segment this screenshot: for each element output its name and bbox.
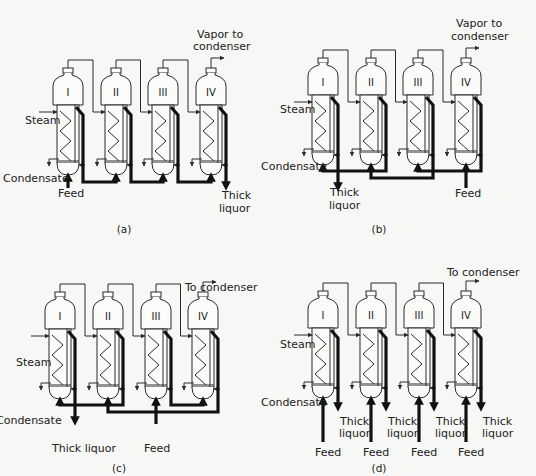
vapor-outlet-cap	[414, 291, 424, 296]
evaporator-bottom	[407, 153, 429, 165]
thick-liquor-label: Thick liquor	[51, 442, 116, 455]
evaporator-body	[360, 95, 382, 153]
vapor-to-condenser-line	[466, 281, 479, 291]
thick-liquor-label: Thick	[329, 186, 360, 199]
steam-label: Steam	[25, 114, 61, 127]
evaporator-bottom	[145, 387, 167, 399]
condensate-label: Condensate	[261, 396, 327, 409]
effect-number: III	[414, 77, 423, 88]
condensate-label: Condensate	[0, 414, 62, 427]
feed-label: Feed	[458, 446, 484, 459]
effect-number: IV	[198, 311, 208, 322]
effect-number: III	[415, 310, 424, 321]
vapor-outlet-cap	[158, 68, 168, 73]
evaporator-body	[145, 329, 167, 387]
evaporator-body	[152, 105, 174, 163]
panel-caption: (d)	[372, 462, 387, 474]
evaporator-body	[408, 328, 430, 386]
evaporator-bottom	[455, 153, 477, 165]
effect-number: I	[59, 311, 62, 322]
evaporator-body	[200, 105, 222, 163]
panel-caption: (a)	[117, 223, 132, 235]
evaporator-bottom	[105, 163, 127, 175]
vapor-to-condenser-label: condenser	[193, 40, 251, 53]
vapor-to-condenser-line	[466, 48, 479, 58]
feed-label: Feed	[144, 442, 170, 455]
condensate-label: Condensate	[3, 172, 69, 185]
panel-c: IIIIIIIVTo condenserSteamCondensateThick…	[0, 281, 258, 474]
effect-number: I	[67, 87, 70, 98]
vapor-outlet-cap	[461, 58, 471, 63]
evaporator-body	[49, 329, 71, 387]
feed-label: Feed	[315, 446, 341, 459]
panel-b: IIIIIIIVVapor tocondenserSteamCondensate…	[261, 17, 509, 235]
evaporator-bottom	[360, 386, 382, 398]
effect-number: IV	[461, 310, 471, 321]
vapor-outlet-cap	[63, 68, 73, 73]
evaporator-bottom	[152, 163, 174, 175]
thick-liquor-label: liquor	[339, 427, 371, 440]
thick-liquor-label: liquor	[387, 427, 419, 440]
vapor-outlet-cap	[151, 292, 161, 297]
effect-number: II	[113, 87, 119, 98]
vapor-outlet-cap	[111, 68, 121, 73]
vapor-to-condenser-line	[211, 58, 224, 68]
effect-number: I	[322, 77, 325, 88]
vapor-outlet-cap	[366, 58, 376, 63]
effect-number: II	[368, 77, 374, 88]
evaporator-bottom	[97, 387, 119, 399]
steam-label: Steam	[280, 338, 316, 351]
condensate-label: Condensate	[261, 160, 327, 173]
feed-label: Feed	[411, 446, 437, 459]
vapor-to-condenser-label: condenser	[451, 30, 509, 43]
effect-number: III	[152, 311, 161, 322]
evaporator-body	[455, 328, 477, 386]
effect-number: IV	[206, 87, 216, 98]
evaporator-bottom	[408, 386, 430, 398]
vapor-outlet-cap	[413, 58, 423, 63]
panel-d: IIIIIIIVThickliquorFeedThickliquorFeedTh…	[261, 266, 520, 474]
effect-number: I	[322, 310, 325, 321]
thick-liquor-label: liquor	[435, 427, 467, 440]
panel-a: IIIIIIIVVapor tocondenserSteamCondensate…	[3, 28, 252, 235]
vapor-outlet-cap	[318, 58, 328, 63]
vapor-outlet-cap	[103, 292, 113, 297]
evaporator-bottom	[360, 153, 382, 165]
effect-number: IV	[461, 77, 471, 88]
effect-number: III	[159, 87, 168, 98]
evaporator-figure: IIIIIIIVVapor tocondenserSteamCondensate…	[0, 0, 536, 476]
vapor-outlet-cap	[318, 291, 328, 296]
evaporator-body	[192, 329, 214, 387]
thick-liquor-label: liquor	[219, 202, 251, 215]
evaporator-body	[97, 329, 119, 387]
evaporator-bottom	[49, 387, 71, 399]
panel-caption: (c)	[112, 462, 126, 474]
vapor-to-condenser-label: Vapor to	[456, 17, 502, 30]
vapor-to-condenser-label: To condenser	[446, 266, 520, 279]
vapor-outlet-cap	[366, 291, 376, 296]
evaporator-body	[312, 328, 334, 386]
evaporator-body	[105, 105, 127, 163]
evaporator-bottom	[192, 387, 214, 399]
vapor-outlet-cap	[206, 68, 216, 73]
thick-liquor-label: liquor	[329, 199, 361, 212]
steam-label: Steam	[280, 103, 316, 116]
evaporator-bottom	[200, 163, 222, 175]
effect-number: II	[368, 310, 374, 321]
effect-number: II	[105, 311, 111, 322]
evaporator-body	[407, 95, 429, 153]
evaporator-body	[360, 328, 382, 386]
thick-liquor-label: Thick	[221, 189, 252, 202]
evaporator-body	[455, 95, 477, 153]
steam-label: Steam	[16, 356, 52, 369]
feed-label: Feed	[455, 187, 481, 200]
panel-caption: (b)	[372, 223, 387, 235]
vapor-outlet-cap	[55, 292, 65, 297]
feed-label: Feed	[363, 446, 389, 459]
feed-label: Feed	[58, 187, 84, 200]
thick-liquor-label: liquor	[482, 427, 514, 440]
vapor-outlet-cap	[461, 291, 471, 296]
evaporator-bottom	[455, 386, 477, 398]
vapor-to-condenser-label: To condenser	[184, 281, 258, 294]
